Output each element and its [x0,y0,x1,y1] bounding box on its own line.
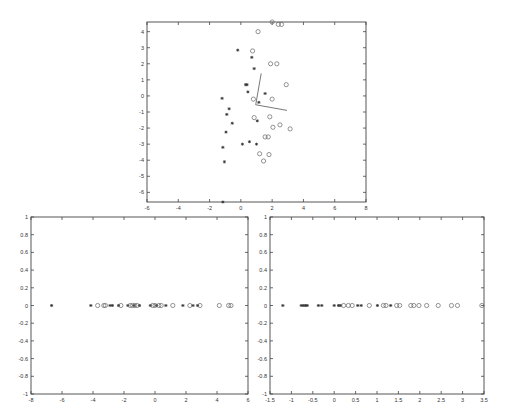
x-tick-label: 2 [271,205,274,211]
x-tick-label: 6 [246,397,249,403]
star-marker [376,304,379,307]
y-tick-label: -6 [139,189,144,195]
star-marker [356,304,359,307]
y-tick-label: 0 [141,93,144,99]
y-tick-label: 3 [141,45,144,51]
circle-marker [278,123,282,127]
circle-marker [252,116,256,120]
y-tick-label: 0.2 [20,285,28,291]
plot-2: -8-6-4-20246-1-0.8-0.6-0.4-0.200.20.40.6… [19,214,250,403]
y-tick-label: 0 [25,303,28,309]
star-marker [236,49,239,52]
star-marker [248,140,251,143]
figure-canvas: -6-4-202468-6-5-4-3-2-101234-8-6-4-20246… [0,0,507,418]
star-marker [221,201,224,204]
plot-3: -1.5-1-0.500.511.522.533.5-1-0.8-0.6-0.4… [258,214,488,403]
y-tick-label: -0.4 [258,338,267,344]
star-marker [231,122,234,125]
axes-box [147,22,366,202]
circle-marker [436,303,440,307]
x-tick-label: -0.5 [308,397,317,403]
star-marker [50,304,53,307]
circle-marker [251,97,255,101]
star-marker [257,101,260,104]
star-marker [246,83,249,86]
star-marker [255,143,258,146]
star-marker [253,67,256,70]
star-marker [225,113,228,116]
x-tick-label: 8 [364,205,367,211]
circle-marker [258,152,262,156]
y-tick-label: -1 [262,391,267,397]
star-marker [264,92,267,95]
y-tick-label: -2 [139,125,144,131]
x-tick-label: -6 [145,205,150,211]
star-marker [306,304,309,307]
x-tick-label: -2 [122,397,127,403]
circle-marker [288,127,292,131]
x-tick-label: 1 [375,397,378,403]
circle-marker [96,303,100,307]
star-marker [281,304,284,307]
y-tick-label: -0.8 [19,373,28,379]
y-tick-label: -0.8 [258,373,267,379]
circle-marker [250,49,254,53]
star-marker [241,143,244,146]
y-tick-label: -4 [139,157,144,163]
circle-marker [384,303,388,307]
x-tick-label: 2.5 [437,397,445,403]
circle-marker [279,22,283,26]
circle-marker [256,30,260,34]
circle-marker [266,135,270,139]
y-tick-label: 1 [264,214,267,220]
star-marker [181,304,184,307]
y-tick-label: 4 [141,29,144,35]
circle-marker [271,125,275,129]
star-marker [317,304,320,307]
star-marker [228,107,231,110]
y-tick-label: -0.6 [258,356,267,362]
y-tick-label: -3 [139,141,144,147]
y-tick-label: 1 [141,77,144,83]
star-marker [246,90,249,93]
circle-marker [412,303,416,307]
circle-marker [284,83,288,87]
x-tick-label: 0 [333,397,336,403]
star-marker [111,304,114,307]
x-tick-label: -8 [29,397,34,403]
circle-marker [268,115,272,119]
x-tick-label: 4 [302,205,305,211]
x-tick-label: 2 [418,397,421,403]
y-tick-label: 0.4 [20,267,28,273]
circle-marker [342,303,346,307]
circle-marker [261,159,265,163]
y-tick-label: 2 [141,61,144,67]
circle-marker [217,303,221,307]
star-marker [250,56,253,59]
direction-line [256,105,287,111]
x-tick-label: 4 [215,397,218,403]
x-tick-label: 0 [239,205,242,211]
x-tick-label: -6 [60,397,65,403]
circle-marker [275,62,279,66]
x-tick-label: 3 [461,397,464,403]
y-tick-label: 0.4 [259,267,267,273]
y-tick-label: 0.2 [259,285,267,291]
x-tick-label: -1.5 [265,397,274,403]
circle-marker [188,303,192,307]
y-tick-label: 0.8 [259,232,267,238]
star-marker [223,160,226,163]
x-tick-label: 0 [153,397,156,403]
circle-marker [425,303,429,307]
y-tick-label: 1 [25,214,28,220]
x-tick-label: 3.5 [480,397,488,403]
y-tick-label: -1 [139,109,144,115]
y-tick-label: -0.2 [19,320,28,326]
y-tick-label: -0.4 [19,338,28,344]
x-tick-label: 2 [184,397,187,403]
circle-marker [398,303,402,307]
y-tick-label: -1 [23,391,28,397]
y-tick-label: 0.6 [259,249,267,255]
star-marker [89,304,92,307]
circle-marker [270,97,274,101]
